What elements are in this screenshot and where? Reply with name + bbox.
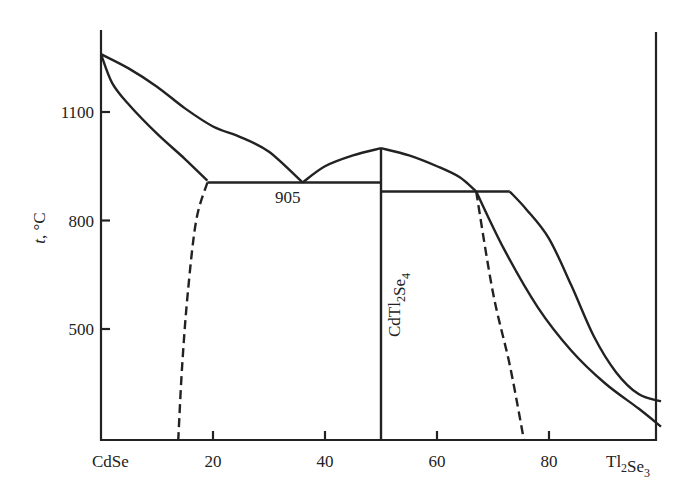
x-tick-label: 40: [317, 452, 334, 471]
x-tick-label: 80: [541, 452, 558, 471]
phase-diagram-chart: 5008001100 20406080 CdSe Tl2Se3 t, °C 90…: [0, 0, 689, 496]
solubility-CdSe-line: [178, 183, 207, 440]
eutectic-annotation: 905: [275, 188, 301, 207]
liquidus-compound-right-line: [381, 148, 476, 191]
compound-annotation: CdTl2Se4: [385, 273, 413, 337]
y-tick-label: 1100: [61, 103, 94, 122]
x-tick-label: 20: [205, 452, 222, 471]
y-axis-label: t, °C: [30, 212, 49, 243]
series-layer: [101, 54, 661, 439]
liquidus-left-line: [101, 54, 303, 182]
y-tick-label: 800: [69, 212, 95, 231]
axes: [100, 30, 657, 441]
solidus-left-line: [101, 54, 207, 181]
y-tick-label: 500: [69, 320, 95, 339]
y-ticks: 5008001100: [61, 103, 110, 339]
x-right-label: Tl2Se3: [606, 452, 650, 480]
liquidus-compound-left-line: [303, 148, 381, 182]
x-tick-label: 60: [429, 452, 446, 471]
solubility-Tl2Se3-line: [476, 192, 524, 440]
liquidus-right-line: [510, 192, 661, 402]
x-left-label: CdSe: [92, 452, 129, 471]
